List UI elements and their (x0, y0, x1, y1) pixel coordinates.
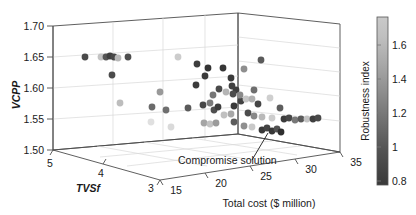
scatter-point (286, 115, 293, 122)
y-tick-1: 1.65 (24, 51, 45, 63)
y-tick-2: 1.60 (24, 82, 45, 94)
y-tick-0: 1.70 (24, 20, 45, 32)
scatter-point (207, 121, 214, 128)
scatter-point (207, 100, 214, 107)
scatter-point (216, 86, 223, 93)
colorbar-tick-1: 1.4 (392, 73, 407, 85)
scatter-point (245, 110, 252, 117)
scatter-point (221, 112, 228, 119)
scatter-point (193, 82, 200, 89)
scatter-point (163, 107, 170, 114)
scatter-point (251, 87, 258, 94)
depth-tick-1: 4 (98, 167, 104, 179)
scatter-point (228, 75, 235, 82)
plot-svg: 1.70 1.65 1.60 1.55 1.50 VCPP 5 4 3 TVSf… (0, 0, 416, 215)
scatter-point (229, 83, 236, 90)
scatter-point (210, 92, 217, 99)
scatter-point (202, 73, 209, 80)
scatter-point (269, 115, 276, 122)
scatter-points-layer (82, 53, 322, 136)
scatter-point (241, 123, 248, 130)
scatter-point (277, 105, 284, 112)
colorbar-tick-2: 1.2 (392, 107, 407, 119)
scatter-point (267, 95, 274, 102)
y-tick-4: 1.50 (24, 144, 45, 156)
scatter-point (259, 114, 266, 121)
scatter-point (237, 92, 244, 99)
scatter-point (115, 55, 122, 62)
scatter-point (255, 101, 262, 108)
scatter-point (298, 116, 305, 123)
scatter-point (125, 54, 132, 61)
scatter-point (258, 57, 265, 64)
colorbar-tick-0: 1.6 (392, 39, 407, 51)
scatter-point (228, 111, 235, 118)
scatter-point (230, 91, 237, 98)
depth-tick-0: 5 (47, 157, 53, 169)
scatter-point (215, 104, 222, 111)
colorbar-tick-4: 0.8 (392, 175, 407, 187)
colorbar-gradient (377, 17, 388, 185)
x-tick-4: 35 (350, 156, 362, 168)
scatter-point (278, 129, 285, 136)
scatter-point (292, 117, 299, 124)
x-tick-1: 20 (215, 177, 227, 189)
scatter-point (82, 54, 89, 61)
scatter-point (200, 102, 207, 109)
scatter-point (205, 65, 212, 72)
scatter-point (201, 120, 208, 127)
scatter-point (304, 116, 311, 123)
scatter-point (241, 66, 248, 73)
colorbar-tick-3: 1 (392, 141, 398, 153)
scatter-point (213, 120, 220, 127)
depth-tick-2: 3 (148, 182, 154, 194)
y-tick-3: 1.55 (24, 113, 45, 125)
y-axis-label: VCPP (10, 80, 22, 110)
colorbar[interactable]: 1.6 1.4 1.2 1 0.8 Robustness index (360, 17, 407, 187)
scatter-point (223, 89, 230, 96)
x-tick-2: 25 (260, 170, 272, 182)
scatter-point (249, 124, 256, 131)
scatter-point (243, 96, 250, 103)
x-tick-3: 30 (305, 163, 317, 175)
colorbar-title: Robustness index (360, 61, 371, 141)
x-tick-0: 15 (170, 184, 182, 196)
scatter-point (168, 124, 175, 131)
scatter-point (117, 100, 124, 107)
scatter-point (231, 103, 238, 110)
depth-axis-label: TVSf (76, 182, 101, 194)
y-axis: 1.70 1.65 1.60 1.55 1.50 VCPP (10, 20, 53, 156)
figure-3d-scatter: 1.70 1.65 1.60 1.55 1.50 VCPP 5 4 3 TVSf… (0, 0, 416, 215)
scatter-point (251, 113, 258, 120)
scatter-point (149, 104, 156, 111)
scatter-point (249, 96, 256, 103)
scatter-point (175, 54, 182, 61)
back-wall-left (53, 13, 238, 150)
scatter-point (220, 65, 227, 72)
back-wall-right (238, 13, 340, 152)
scatter-point (157, 89, 164, 96)
compromise-solution-label: Compromise solution (178, 154, 277, 166)
scatter-point (194, 61, 201, 68)
scatter-point (109, 72, 116, 79)
scatter-point (231, 119, 238, 126)
x-axis-label: Total cost ($ million) (223, 197, 316, 209)
scatter-point (148, 119, 155, 126)
scatter-point (315, 115, 322, 122)
scatter-point (185, 105, 192, 112)
